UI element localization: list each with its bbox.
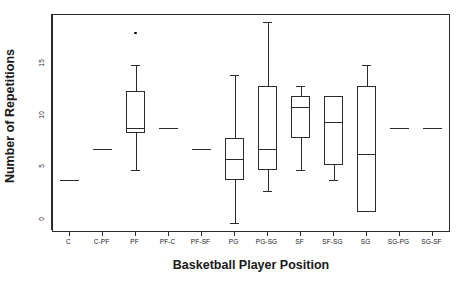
box-single-line (93, 149, 113, 150)
x-tick-label: C (66, 238, 71, 246)
median-line (258, 149, 278, 150)
x-tick-mark (201, 232, 202, 236)
boxplot-series (53, 15, 449, 231)
x-axis-title: Basketball Player Position (52, 258, 450, 272)
y-tick-label: 0 (39, 217, 46, 221)
whisker-upper (367, 65, 368, 86)
whisker-upper (268, 22, 269, 85)
median-line (126, 128, 146, 129)
whisker-cap-lower (329, 180, 339, 181)
whisker-cap-lower (131, 170, 141, 171)
median-line (357, 154, 377, 155)
y-tick-label: 10 (39, 111, 46, 119)
box (324, 96, 344, 164)
box (291, 96, 311, 138)
whisker-cap-upper (362, 65, 372, 66)
x-tick-mark (168, 232, 169, 236)
whisker-lower (301, 138, 302, 170)
median-line (291, 107, 311, 108)
whisker-cap-upper (230, 75, 240, 76)
x-tick-mark (135, 232, 136, 236)
whisker-upper (136, 65, 137, 91)
whisker-cap-upper (296, 86, 306, 87)
x-tick-mark (102, 232, 103, 236)
box-single-line (192, 149, 212, 150)
x-tick-label: SG-PG (388, 238, 409, 246)
x-tick-label: PF (130, 238, 139, 246)
box (126, 91, 146, 133)
x-tick-label: PF-C (160, 238, 176, 246)
box (258, 86, 278, 170)
x-tick-label: PF-SF (191, 238, 210, 246)
box-single-line (60, 180, 80, 181)
x-tick-mark (300, 232, 301, 236)
x-tick-mark (267, 232, 268, 236)
box (357, 86, 377, 212)
whisker-cap-lower (296, 170, 306, 171)
plot-area (52, 14, 450, 232)
box-single-line (423, 128, 443, 129)
x-tick-label: SG-SF (421, 238, 441, 246)
x-tick-mark (333, 232, 334, 236)
x-tick-mark (366, 232, 367, 236)
whisker-lower (235, 180, 236, 222)
y-tick-label: 15 (39, 59, 46, 67)
median-line (225, 159, 245, 160)
x-tick-label: SF (295, 238, 304, 246)
whisker-lower (334, 165, 335, 181)
whisker-cap-lower (263, 191, 273, 192)
x-tick-label: C-PF (94, 238, 110, 246)
x-tick-mark (69, 232, 70, 236)
x-tick-label: SG (361, 238, 371, 246)
x-tick-mark (432, 232, 433, 236)
whisker-cap-upper (131, 65, 141, 66)
whisker-cap-lower (230, 223, 240, 224)
whisker-cap-upper (263, 22, 273, 23)
whisker-lower (136, 133, 137, 170)
x-tick-label: PG (229, 238, 239, 246)
chart-root: Number of Repetitions 051015 CC-PFPFPF-C… (0, 0, 473, 290)
whisker-upper (235, 75, 236, 138)
median-line (324, 122, 344, 123)
box-single-line (390, 128, 410, 129)
x-tick-mark (399, 232, 400, 236)
outlier-point (134, 32, 137, 35)
whisker-lower (268, 170, 269, 191)
x-tick-label: SF-SG (322, 238, 342, 246)
y-axis: 051015 (0, 0, 52, 290)
y-tick-label: 5 (39, 164, 46, 168)
box-single-line (159, 128, 179, 129)
whisker-upper (301, 86, 302, 97)
x-tick-label: PG-SG (256, 238, 277, 246)
x-tick-mark (234, 232, 235, 236)
